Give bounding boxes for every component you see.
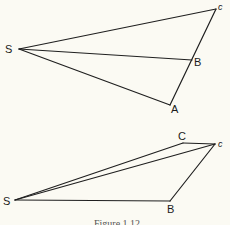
figure-canvas: S c B A C c S B Figure 1.12 (0, 0, 230, 225)
label-c-top: c (218, 2, 223, 12)
label-C-bottom: C (178, 130, 186, 142)
label-A-top: A (171, 103, 179, 115)
segment-S-c (19, 9, 216, 49)
segment-A-c (170, 9, 216, 105)
segment-C-c (183, 143, 215, 144)
label-c-bottom: c (218, 139, 223, 149)
segment-S-C (15, 143, 183, 200)
label-S-bottom: S (3, 195, 10, 207)
label-S-top: S (5, 43, 12, 55)
top-diagram: S c B A (5, 2, 223, 115)
segment-B-c (170, 144, 215, 201)
bottom-diagram: C c S B (3, 130, 223, 215)
label-B-bottom: B (167, 203, 174, 215)
figure-caption: Figure 1.12 (94, 218, 140, 225)
label-B-top: B (194, 56, 201, 68)
segment-S-c (15, 144, 215, 200)
segment-S-B (15, 200, 170, 201)
